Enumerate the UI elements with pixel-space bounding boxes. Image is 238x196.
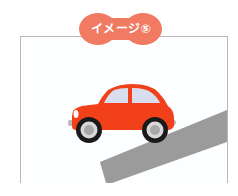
- front-wheel: [76, 117, 102, 143]
- badge-label: イメージ⑤: [80, 18, 162, 40]
- rear-wheel: [142, 117, 168, 143]
- car-icon: [68, 84, 176, 143]
